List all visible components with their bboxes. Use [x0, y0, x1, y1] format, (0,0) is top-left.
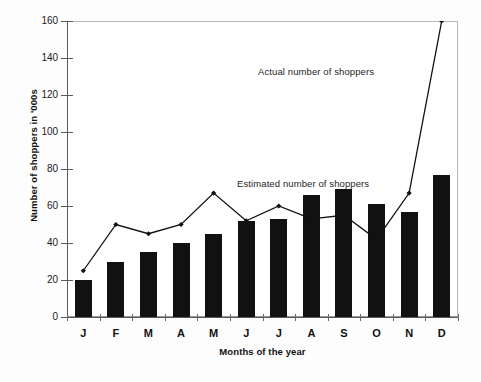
bar-F-1 [107, 262, 124, 318]
bar-J-0 [75, 280, 92, 317]
x-tick-mark [132, 314, 133, 321]
y-tick-label: 20 [32, 274, 58, 285]
x-tick-label-1: F [104, 327, 128, 339]
x-tick-label-3: A [169, 327, 193, 339]
x-tick-label-11: D [430, 327, 454, 339]
x-tick-mark [165, 314, 166, 321]
x-tick-label-5: J [234, 327, 258, 339]
x-tick-label-2: M [136, 327, 160, 339]
x-tick-label-9: O [365, 327, 389, 339]
x-tick-label-8: S [332, 327, 356, 339]
y-tick-label: 0 [32, 311, 58, 322]
bar-O-9 [368, 204, 385, 317]
annotation-estimated-series: Estimated number of shoppers [237, 178, 369, 189]
bar-D-11 [433, 175, 450, 317]
x-tick-mark [197, 314, 198, 321]
x-tick-mark [295, 314, 296, 321]
y-axis-title: Number of shoppers in '000s [28, 51, 39, 261]
bar-A-3 [173, 243, 190, 317]
x-tick-mark [263, 314, 264, 321]
bar-M-2 [140, 252, 157, 317]
chart-figure: 020406080100120140160 JFMAMJJASOND Numbe… [0, 0, 481, 382]
x-tick-label-4: M [202, 327, 226, 339]
bar-M-4 [205, 234, 222, 317]
x-tick-label-6: J [267, 327, 291, 339]
x-tick-mark [393, 314, 394, 321]
x-tick-label-10: N [397, 327, 421, 339]
x-tick-mark [360, 314, 361, 321]
bar-A-7 [303, 195, 320, 317]
x-tick-mark [230, 314, 231, 321]
bar-J-6 [270, 219, 287, 317]
x-tick-mark [425, 314, 426, 321]
y-tick-label: 160 [32, 15, 58, 26]
x-axis-title: Months of the year [67, 346, 458, 357]
x-tick-mark [100, 314, 101, 321]
bar-J-5 [238, 221, 255, 317]
x-tick-label-0: J [71, 327, 95, 339]
annotation-actual-series: Actual number of shoppers [258, 66, 374, 77]
x-tick-label-7: A [299, 327, 323, 339]
bar-S-8 [335, 189, 352, 317]
x-tick-mark [67, 314, 68, 321]
bar-N-10 [401, 212, 418, 317]
x-tick-mark [328, 314, 329, 321]
x-tick-mark [458, 314, 459, 321]
